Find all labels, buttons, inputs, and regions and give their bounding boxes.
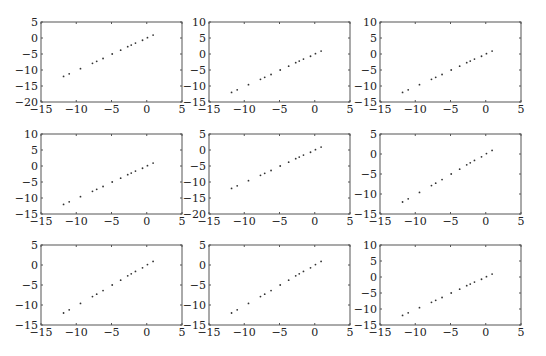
data-point <box>279 165 281 167</box>
x-tick-label: 0 <box>143 103 150 116</box>
x-tick-label: 0 <box>311 215 318 228</box>
y-tick-label: 5 <box>31 239 38 252</box>
data-point <box>419 307 421 309</box>
data-point <box>435 299 437 301</box>
data-point <box>68 309 70 311</box>
x-tick-label: −10 <box>404 326 427 339</box>
data-point <box>288 65 290 67</box>
data-point <box>295 275 297 277</box>
data-point <box>142 167 144 169</box>
data-point <box>152 261 154 263</box>
data-point <box>152 34 154 36</box>
data-point <box>111 53 113 55</box>
data-point <box>419 192 421 194</box>
y-tick-label: −15 <box>354 319 377 332</box>
data-point <box>102 186 104 188</box>
data-point <box>147 264 149 266</box>
data-point <box>135 170 137 172</box>
data-point <box>147 37 149 39</box>
data-point <box>147 165 149 167</box>
data-point <box>431 301 433 303</box>
data-point <box>270 74 272 76</box>
data-point <box>474 281 476 283</box>
data-point <box>127 46 129 48</box>
data-point <box>68 201 70 203</box>
subplot-3: −15−10−505−15−10−50510 <box>354 16 525 116</box>
y-tick-label: −15 <box>183 192 206 205</box>
data-point <box>481 156 483 158</box>
data-point <box>111 181 113 183</box>
subplot-grid: −15−10−505−20−15−10−505−15−10−505−15−10−… <box>0 0 546 356</box>
y-tick-label: 0 <box>31 160 38 173</box>
y-tick-label: −15 <box>354 208 377 221</box>
data-point <box>459 168 461 170</box>
x-tick-label: 5 <box>347 215 354 228</box>
y-tick-label: −10 <box>15 192 38 205</box>
data-point <box>407 312 409 314</box>
data-point <box>474 160 476 162</box>
y-tick-label: 0 <box>31 32 38 45</box>
data-point <box>120 177 122 179</box>
data-point <box>491 150 493 152</box>
data-point <box>481 278 483 280</box>
data-point <box>486 53 488 55</box>
data-point <box>441 74 443 76</box>
x-tick-label: 5 <box>347 326 354 339</box>
data-point <box>63 204 65 206</box>
data-point <box>481 55 483 57</box>
data-point <box>96 60 98 62</box>
data-point <box>459 65 461 67</box>
x-tick-label: 0 <box>482 326 489 339</box>
data-point <box>288 279 290 281</box>
data-point <box>231 92 233 94</box>
data-point <box>92 62 94 64</box>
y-tick-label: 5 <box>199 32 206 45</box>
x-tick-label: 0 <box>143 215 150 228</box>
x-tick-label: −5 <box>103 326 119 339</box>
data-point <box>315 149 317 151</box>
y-tick-label: 5 <box>199 128 206 141</box>
y-tick-label: 5 <box>370 128 377 141</box>
data-point <box>236 89 238 91</box>
data-point <box>248 180 250 182</box>
data-point <box>320 146 322 148</box>
data-point <box>315 264 317 266</box>
axes-frame <box>41 134 182 214</box>
data-point <box>96 188 98 190</box>
data-point <box>120 49 122 51</box>
y-tick-label: −15 <box>354 96 377 109</box>
data-point <box>491 50 493 52</box>
data-point <box>102 290 104 292</box>
subplot-7: −15−10−505−15−10−505 <box>15 239 186 339</box>
y-tick-label: 0 <box>199 144 206 157</box>
subplot-4: −15−10−505−15−10−50510 <box>15 128 186 228</box>
y-tick-label: −5 <box>22 176 38 189</box>
data-point <box>63 312 65 314</box>
y-tick-label: 5 <box>31 144 38 157</box>
data-point <box>491 273 493 275</box>
data-point <box>450 69 452 71</box>
y-tick-label: 0 <box>370 148 377 161</box>
data-point <box>298 60 300 62</box>
data-point <box>260 78 262 80</box>
data-point <box>127 174 129 176</box>
x-tick-label: −10 <box>233 215 256 228</box>
data-point <box>80 303 82 305</box>
data-point <box>279 69 281 71</box>
axes-frame <box>41 22 182 102</box>
y-tick-label: 10 <box>24 128 38 141</box>
x-tick-label: −10 <box>65 215 88 228</box>
x-tick-label: −10 <box>233 103 256 116</box>
data-point <box>310 55 312 57</box>
data-point <box>142 39 144 41</box>
data-point <box>63 76 65 78</box>
data-point <box>441 179 443 181</box>
y-tick-label: 0 <box>199 259 206 272</box>
data-point <box>310 151 312 153</box>
y-tick-label: −5 <box>361 287 377 300</box>
data-point <box>248 303 250 305</box>
data-point <box>466 164 468 166</box>
y-tick-label: −5 <box>361 64 377 77</box>
data-point <box>450 292 452 294</box>
data-point <box>407 89 409 91</box>
